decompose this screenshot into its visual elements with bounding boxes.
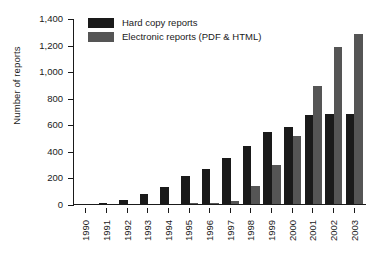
bar-group: [305, 19, 322, 204]
bar-1998-hard-copy: [243, 146, 252, 204]
x-axis-tick-cell: 2002: [325, 208, 343, 236]
bar-1996-hard-copy: [202, 169, 211, 204]
bar-2002-electronic: [334, 47, 343, 204]
x-axis-tick-cell: 1997: [221, 208, 239, 236]
bar-2002-hard-copy: [325, 114, 334, 204]
bar-group: [243, 19, 260, 204]
y-axis-tick-label: 600: [47, 119, 63, 130]
x-axis-tick-cell: 1991: [98, 208, 116, 236]
bar-2003-electronic: [354, 34, 363, 204]
legend-item-hard-copy: Hard copy reports: [88, 17, 261, 28]
x-axis-tick-cell: 1994: [160, 208, 178, 236]
bar-2001-hard-copy: [305, 115, 314, 204]
legend-swatch-icon-electronic: [88, 32, 114, 42]
x-axis-tick-label: 2003: [349, 220, 360, 241]
x-axis-tick: [189, 208, 190, 213]
bar-1999-hard-copy: [263, 132, 272, 204]
legend-label-hard-copy: Hard copy reports: [122, 17, 198, 28]
chart-legend: Hard copy reports Electronic reports (PD…: [88, 17, 261, 42]
x-axis-tick-label: 1997: [225, 220, 236, 241]
x-axis-tick-label: 1998: [245, 220, 256, 241]
x-axis-tick: [333, 208, 334, 213]
x-axis-tick: [292, 208, 293, 213]
bar-group: [284, 19, 301, 204]
bar-chart: Number of reports 02004006008001,0001,20…: [0, 0, 378, 267]
bar-1991-hard-copy: [99, 203, 108, 204]
legend-label-electronic: Electronic reports (PDF & HTML): [122, 31, 261, 42]
x-axis-tick: [106, 208, 107, 213]
bar-1997-hard-copy: [222, 158, 231, 204]
x-axis-labels: 1990199119921993199419951996199719981999…: [73, 208, 366, 236]
bar-group: [78, 19, 95, 204]
bar-1994-hard-copy: [160, 187, 169, 204]
bar-group: [263, 19, 280, 204]
bar-group: [119, 19, 136, 204]
x-axis-tick-cell: 2000: [283, 208, 301, 236]
plot-area: 02004006008001,0001,2001,400: [73, 19, 366, 205]
x-axis-tick: [85, 208, 86, 213]
x-axis-tick: [209, 208, 210, 213]
bar-1996-electronic: [210, 203, 219, 204]
x-axis-tick-label: 1991: [101, 220, 112, 241]
x-axis-tick-label: 1993: [142, 220, 153, 241]
bar-2001-electronic: [313, 86, 322, 204]
x-axis-tick-cell: 2001: [304, 208, 322, 236]
bar-1999-electronic: [272, 165, 281, 204]
x-axis-tick-cell: 1996: [201, 208, 219, 236]
x-axis-tick: [271, 208, 272, 213]
x-axis-tick-label: 2002: [328, 220, 339, 241]
x-axis-tick-label: 1996: [204, 220, 215, 241]
bar-1998-electronic: [251, 186, 260, 204]
bar-2000-electronic: [293, 136, 302, 204]
x-axis-tick-label: 1994: [163, 220, 174, 241]
y-axis-tick-label: 1,200: [39, 40, 63, 51]
y-axis-tick: 0: [68, 205, 74, 206]
x-axis-tick-cell: 2003: [345, 208, 363, 236]
bar-group: [160, 19, 177, 204]
y-axis-tick-label: 0: [58, 199, 63, 210]
x-axis-tick-cell: 1992: [118, 208, 136, 236]
y-axis-tick-label: 800: [47, 93, 63, 104]
bar-group: [222, 19, 239, 204]
y-axis-title: Number of reports: [11, 26, 22, 146]
bar-1997-electronic: [231, 201, 240, 204]
x-axis-tick-label: 1992: [122, 220, 133, 241]
x-axis-tick: [354, 208, 355, 213]
bar-group: [181, 19, 198, 204]
x-axis-tick-cell: 1995: [180, 208, 198, 236]
legend-item-electronic: Electronic reports (PDF & HTML): [88, 31, 261, 42]
bar-2003-hard-copy: [346, 114, 355, 204]
bar-1995-electronic: [190, 203, 199, 204]
bar-1992-hard-copy: [119, 200, 128, 204]
x-axis-tick-cell: 1999: [263, 208, 281, 236]
x-axis-tick: [312, 208, 313, 213]
x-axis-tick: [147, 208, 148, 213]
bar-group: [202, 19, 219, 204]
x-axis-tick-label: 2001: [307, 220, 318, 241]
x-axis-tick-label: 1995: [184, 220, 195, 241]
bar-group: [346, 19, 363, 204]
x-axis-tick: [127, 208, 128, 213]
x-axis-tick: [168, 208, 169, 213]
x-axis-tick-label: 2000: [287, 220, 298, 241]
bar-2000-hard-copy: [284, 127, 293, 204]
x-axis-tick-label: 1990: [80, 220, 91, 241]
bar-group: [99, 19, 116, 204]
bar-1993-hard-copy: [140, 194, 149, 204]
legend-swatch-icon-hard-copy: [88, 18, 114, 28]
bar-group: [325, 19, 342, 204]
x-axis-tick-cell: 1993: [139, 208, 157, 236]
y-axis-tick-label: 400: [47, 146, 63, 157]
bar-1995-hard-copy: [181, 176, 190, 204]
x-axis-tick: [230, 208, 231, 213]
x-axis-tick: [250, 208, 251, 213]
y-axis-tick-label: 200: [47, 172, 63, 183]
y-axis-tick-label: 1,000: [39, 66, 63, 77]
bar-group: [140, 19, 157, 204]
x-axis-tick-cell: 1990: [77, 208, 95, 236]
y-axis-tick-label: 1,400: [39, 13, 63, 24]
x-axis-tick-cell: 1998: [242, 208, 260, 236]
x-axis-tick-label: 1999: [266, 220, 277, 241]
bar-groups: [74, 19, 366, 204]
